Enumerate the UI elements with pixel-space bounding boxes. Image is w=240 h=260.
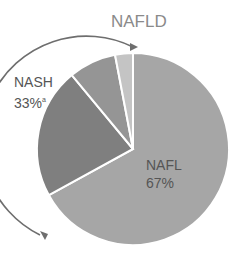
pie-chart [0, 0, 240, 260]
chart-title: NAFLD [111, 12, 167, 32]
pie-slices [37, 53, 229, 245]
nafl-label: NAFL 67% [146, 156, 182, 192]
nafl-name: NAFL [146, 156, 182, 174]
nash-percent: 33%a [14, 91, 53, 112]
arrowhead-bottom [40, 231, 48, 240]
arrowhead-top [130, 43, 138, 51]
nash-label: NASH 33%a [14, 73, 53, 112]
nafl-percent: 67% [146, 174, 182, 192]
nash-name: NASH [14, 73, 53, 91]
